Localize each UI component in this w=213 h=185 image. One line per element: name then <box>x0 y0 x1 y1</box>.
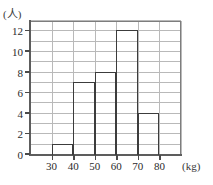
y-axis-tick-label: 2 <box>18 129 24 140</box>
y-axis-tick <box>25 153 30 155</box>
gridline-vertical <box>181 21 182 155</box>
x-axis-tick-label: 60 <box>111 161 122 172</box>
y-axis-tick <box>25 30 30 32</box>
y-axis-tick <box>25 50 30 52</box>
plot-area: 304050607080 024681012 <box>30 21 181 155</box>
y-axis-tick-label: 12 <box>12 26 23 37</box>
y-axis-tick <box>25 133 30 135</box>
y-axis-tick-label: 4 <box>18 108 24 119</box>
x-axis-tick-label: 80 <box>154 161 165 172</box>
histogram-bar <box>95 72 117 155</box>
y-axis-tick <box>25 92 30 94</box>
histogram-bar <box>73 82 95 155</box>
histogram-bar <box>52 144 74 155</box>
y-axis-tick-label: 8 <box>18 67 24 78</box>
histogram-bar <box>116 30 138 155</box>
y-axis-tick-label: 0 <box>18 150 24 161</box>
x-axis-unit-label: (kg) <box>182 161 200 172</box>
histogram-bar <box>138 113 160 155</box>
y-axis-tick <box>25 112 30 114</box>
y-axis-tick-label: 10 <box>12 46 23 57</box>
y-axis-spine <box>29 20 31 156</box>
x-axis-tick-label: 40 <box>68 161 79 172</box>
x-axis-tick-label: 30 <box>46 161 57 172</box>
y-axis-unit-label: (人) <box>3 9 21 20</box>
histogram-chart: (人) (kg) 304050607080 024681012 <box>0 0 213 185</box>
y-axis-tick <box>25 71 30 73</box>
x-axis-tick-label: 70 <box>132 161 143 172</box>
y-axis-tick-label: 6 <box>18 88 24 99</box>
x-axis-tick-label: 50 <box>89 161 100 172</box>
